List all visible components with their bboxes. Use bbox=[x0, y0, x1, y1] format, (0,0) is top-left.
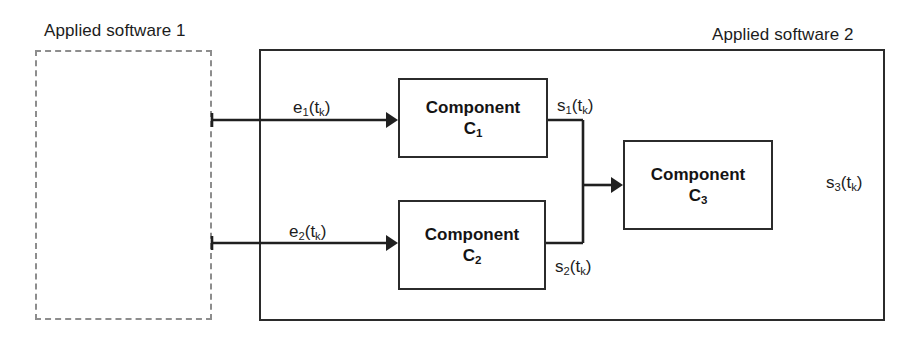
signal-label-s2: s2(tk) bbox=[555, 257, 591, 277]
component-c3-title: Component bbox=[651, 164, 745, 185]
component-c2-title: Component bbox=[425, 224, 519, 245]
signal-s3-base: s bbox=[826, 173, 835, 192]
signal-e2-argindex: k bbox=[315, 230, 321, 242]
signal-s2-argclose: ) bbox=[586, 257, 592, 276]
signal-e1-argclose: ) bbox=[325, 98, 331, 117]
signal-label-s1: s1(tk) bbox=[557, 96, 593, 116]
signal-label-e1: e1(tk) bbox=[293, 98, 330, 118]
signal-label-s3: s3(tk) bbox=[826, 173, 862, 193]
component-c3-index: 3 bbox=[701, 194, 707, 206]
signal-s2-base: s bbox=[555, 257, 564, 276]
applied-software-1-boundary bbox=[35, 50, 212, 320]
block-diagram: Applied software 1 Applied software 2 Co… bbox=[0, 0, 916, 338]
component-c2-box[interactable]: Component C2 bbox=[398, 200, 546, 290]
applied-software-1-label: Applied software 1 bbox=[44, 21, 186, 41]
component-c3-id: C3 bbox=[689, 185, 708, 206]
component-c1-title: Component bbox=[426, 97, 520, 118]
component-c2-index: 2 bbox=[475, 254, 481, 266]
signal-s1-arg: (t bbox=[572, 96, 582, 115]
component-c3-box[interactable]: Component C3 bbox=[623, 140, 773, 230]
applied-software-2-boundary bbox=[259, 49, 885, 321]
component-c2-id: C2 bbox=[463, 245, 482, 266]
signal-s3-argclose: ) bbox=[857, 173, 863, 192]
signal-s3-arg: (t bbox=[841, 173, 851, 192]
signal-e2-arg: (t bbox=[305, 222, 315, 241]
signal-s1-argclose: ) bbox=[588, 96, 594, 115]
component-c1-id: C1 bbox=[464, 118, 483, 139]
signal-e2-index: 2 bbox=[298, 230, 304, 242]
signal-s2-index: 2 bbox=[564, 265, 570, 277]
component-c1-box[interactable]: Component C1 bbox=[398, 78, 548, 158]
signal-s1-index: 1 bbox=[566, 104, 572, 116]
signal-s2-argindex: k bbox=[580, 265, 586, 277]
signal-s2-arg: (t bbox=[570, 257, 580, 276]
component-c1-index: 1 bbox=[476, 127, 482, 139]
signal-e1-index: 1 bbox=[302, 106, 308, 118]
component-c1-name: C bbox=[464, 119, 476, 138]
component-c2-name: C bbox=[463, 246, 475, 265]
component-c3-name: C bbox=[689, 186, 701, 205]
signal-s3-index: 3 bbox=[835, 181, 841, 193]
signal-e1-argindex: k bbox=[319, 106, 325, 118]
signal-label-e2: e2(tk) bbox=[289, 222, 326, 242]
signal-s1-argindex: k bbox=[582, 104, 588, 116]
applied-software-2-label: Applied software 2 bbox=[712, 25, 854, 45]
signal-e1-arg: (t bbox=[309, 98, 319, 117]
signal-s3-argindex: k bbox=[851, 181, 857, 193]
signal-e2-argclose: ) bbox=[321, 222, 327, 241]
signal-s1-base: s bbox=[557, 96, 566, 115]
